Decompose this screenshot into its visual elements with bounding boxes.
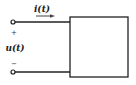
voltage-label: u(t) [5,43,24,53]
top-terminal-icon [11,20,15,24]
circuit-diagram: i(t) u(t) + − [0,0,136,85]
bottom-terminal-icon [11,70,15,74]
network-box [70,17,128,77]
plus-sign: + [11,29,17,37]
current-label: i(t) [34,4,50,14]
minus-sign: − [11,60,17,68]
current-arrow-icon [36,14,55,18]
